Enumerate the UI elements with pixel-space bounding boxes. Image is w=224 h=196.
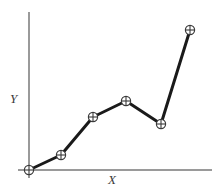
data-point-marker-1[interactable] [24,165,33,174]
line-chart-figure: Y X [0,0,224,196]
data-point-marker-2[interactable] [56,150,65,159]
data-point-marker-3[interactable] [88,112,97,121]
data-point-marker-4[interactable] [121,96,130,105]
data-point-marker-5[interactable] [156,119,165,128]
data-point-marker-6[interactable] [185,25,194,34]
data-series-line [29,30,190,170]
plot-area [0,0,224,196]
axes-group [18,12,212,178]
y-axis-label: Y [10,91,17,107]
data-line-group [29,30,190,170]
x-axis-label: X [108,172,116,188]
